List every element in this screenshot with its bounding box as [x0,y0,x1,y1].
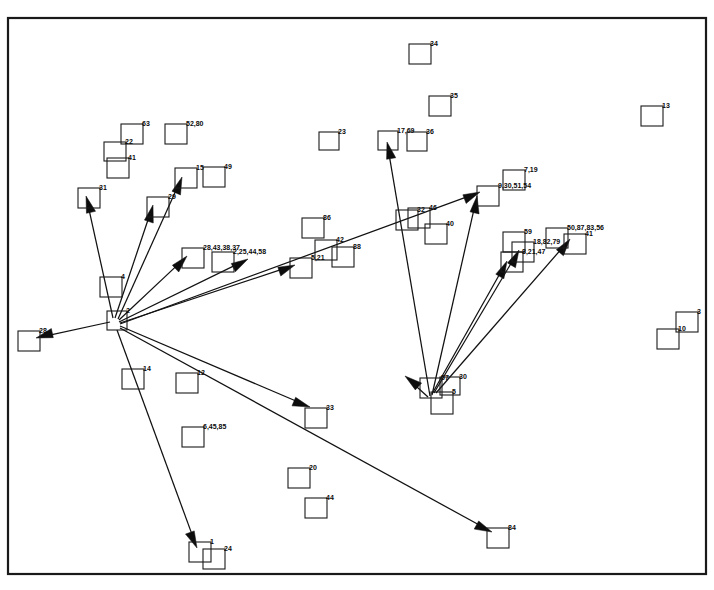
arrow-head [86,196,96,213]
node-33[interactable]: 33 [305,404,334,428]
edge-2-to-84 [120,328,492,532]
node-box-icon[interactable] [288,468,310,488]
node-17-69[interactable]: 17,69 [378,127,415,150]
node-box-icon[interactable] [429,96,451,116]
edge-line [389,156,430,396]
node-35[interactable]: 35 [429,92,458,116]
node-label: 63 [142,120,150,127]
node-label: 33 [326,404,334,411]
node-24[interactable]: 24 [203,545,232,569]
node-label: 4 [121,273,125,280]
node-label: 31 [99,184,107,191]
node-box-icon[interactable] [407,132,427,151]
node-label: 49 [224,163,232,170]
node-10[interactable]: 10 [657,325,686,349]
arrow-head [507,250,519,268]
node-label: 35 [450,92,458,99]
node-20[interactable]: 20 [288,464,317,488]
node-label: 32 [417,206,425,213]
node-link-diagram: 3435136352,802317,6936224115497,19319,30… [0,0,714,590]
edge-5-to-41 [436,239,570,393]
arrow-head [144,205,153,223]
edge-2-to-31 [86,196,113,318]
node-5[interactable]: 5 [431,388,456,414]
node-13[interactable]: 13 [641,102,670,126]
arrow-head [387,142,396,159]
node-label: 13 [662,102,670,109]
node-44[interactable]: 44 [305,494,334,518]
node-label: 84 [508,524,516,531]
edge-line [120,328,480,525]
node-40[interactable]: 40 [425,220,454,244]
node-4[interactable]: 4 [100,273,125,297]
node-box-icon[interactable] [641,106,663,126]
node-box-icon[interactable] [425,224,447,244]
node-34[interactable]: 34 [409,40,438,64]
edge-line [89,210,113,318]
node-88[interactable]: 88 [332,243,361,267]
node-box-icon[interactable] [302,218,324,238]
node-86[interactable]: 86 [302,214,331,238]
node-box-icon[interactable] [477,186,499,206]
arrow-head [405,376,422,390]
node-label: 30 [459,373,467,380]
node-box-icon[interactable] [165,124,187,144]
node-label: 5,21 [311,254,325,262]
node-box-icon[interactable] [100,277,122,297]
node-6-45-85[interactable]: 6,45,85 [182,423,226,447]
node-box-icon[interactable] [176,373,198,393]
node-label: 10 [678,325,686,332]
node-label: 23 [338,128,346,135]
edge-5-to-57-left [405,376,428,397]
node-label: 24 [224,545,232,552]
arrow-head [186,531,197,548]
node-label: 20 [309,464,317,471]
node-label: 46 [429,204,437,211]
node-label: 14 [143,365,151,372]
node-label: 5 [452,388,456,395]
node-box-icon[interactable] [203,167,225,187]
node-box-icon[interactable] [409,44,431,64]
node-box-icon[interactable] [212,252,234,272]
edge-2-to-1 [117,330,197,548]
node-49[interactable]: 49 [203,163,232,187]
node-box-icon[interactable] [319,132,339,150]
node-28[interactable]: 28 [18,327,47,351]
node-label: 88 [353,243,361,250]
node-label: 2,25,44,58 [233,248,266,256]
node-9-30-51-54[interactable]: 9,30,51,54 [477,182,531,206]
node-box-icon[interactable] [18,331,40,351]
node-box-icon[interactable] [182,427,204,447]
node-label: 17,69 [397,127,415,135]
edge-line [119,265,235,322]
node-1[interactable]: 1 [189,538,214,562]
node-31[interactable]: 31 [78,184,107,208]
node-box-icon[interactable] [203,549,225,569]
node-52-80[interactable]: 52,80 [165,120,204,144]
node-box-icon[interactable] [332,247,354,267]
edge-5-to-17,69 [387,142,430,396]
arrow-head [172,256,187,272]
node-label: 3 [697,308,701,315]
node-label: 52,80 [186,120,204,128]
edge-line [115,218,149,318]
node-5-21[interactable]: 5,21 [290,254,325,278]
node-12[interactable]: 12 [176,369,205,393]
edge-line [432,210,474,395]
node-label: 9,30,51,54 [498,182,531,190]
node-23[interactable]: 23 [319,128,346,150]
node-box-icon[interactable] [305,408,327,428]
node-label: 28 [39,327,47,334]
node-28-43-38-37[interactable]: 28,43,38,37 [182,244,240,268]
node-label: 44 [326,494,334,501]
node-41[interactable]: 41 [107,154,136,178]
node-label: 22 [125,138,133,145]
diagram-canvas: 3435136352,802317,6936224115497,19319,30… [0,0,714,590]
node-14[interactable]: 14 [122,365,151,389]
node-84[interactable]: 84 [487,524,516,548]
arrow-head [292,397,310,407]
node-label: 6,45,85 [203,423,226,431]
node-box-icon[interactable] [189,542,211,562]
nodes-layer: 3435136352,802317,6936224115497,19319,30… [18,40,701,569]
node-box-icon[interactable] [305,498,327,518]
